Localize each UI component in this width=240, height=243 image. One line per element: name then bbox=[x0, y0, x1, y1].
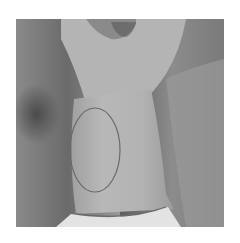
photo-illustration bbox=[16, 19, 224, 227]
forearm-photo bbox=[16, 19, 224, 227]
